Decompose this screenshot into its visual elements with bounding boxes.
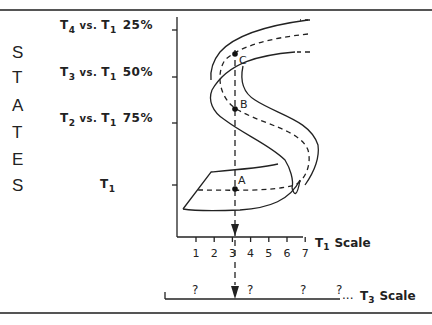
t3-mark: ?	[192, 283, 198, 297]
x-axis-title: T1Scale	[315, 236, 371, 252]
point-b-label: B	[240, 98, 248, 111]
ribbon-top-edge	[211, 20, 308, 80]
point-c-label: C	[239, 54, 247, 67]
diagram-canvas: 1234567 T1Scale A B C ? ? ? ? ... T3Scal…	[0, 0, 432, 325]
ribbon-mid-dashed	[198, 34, 309, 190]
ribbon-right-edge	[242, 66, 319, 185]
x-tick-label: 2	[211, 247, 218, 260]
arrow-head-icon	[231, 286, 239, 299]
point-a-label: A	[238, 174, 246, 187]
ribbon-inner-top-edge	[212, 52, 295, 90]
t3-mark: ?	[247, 283, 253, 297]
arrow-head-icon	[231, 224, 239, 236]
x-tick-label: 6	[284, 247, 291, 260]
point-a	[232, 186, 238, 192]
x-tick-label: 1	[193, 247, 200, 260]
t3-ellipsis: ...	[342, 288, 353, 302]
point-b	[232, 106, 238, 112]
t3-mark: ?	[300, 283, 306, 297]
point-c	[232, 51, 238, 57]
x-tick-label: 7	[302, 247, 309, 260]
x-tick-label: 4	[247, 247, 254, 260]
x-ticks: 1234567	[193, 237, 309, 260]
ribbon-left-edge	[211, 90, 293, 188]
x-tick-label: 5	[265, 247, 272, 260]
ribbon-lower-back-edge	[183, 164, 278, 209]
t3-axis-title: T3Scale	[360, 289, 416, 305]
